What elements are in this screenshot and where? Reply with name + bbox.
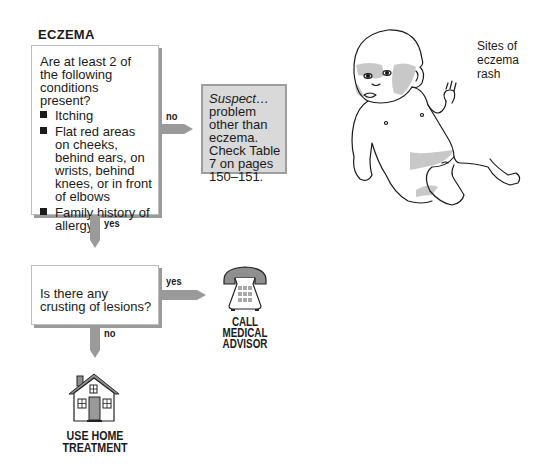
suspect-text: problem other than eczema. Check Table 7…	[209, 105, 281, 183]
use-home-treatment-label: USE HOME TREATMENT	[60, 430, 131, 454]
branch-label-no: no	[166, 110, 177, 122]
arrow-no-down	[90, 326, 100, 358]
call-medical-advisor-label: CALL MEDICAL ADVISOR	[216, 317, 273, 350]
arrow-yes-right	[160, 290, 206, 300]
arrow-yes-down	[90, 216, 100, 248]
arrow-no-right	[160, 124, 193, 134]
question-box-crusting: Is there any crusting of lesions?	[31, 265, 159, 325]
branch-label-yes: yes	[166, 275, 182, 287]
telephone-icon	[221, 264, 269, 314]
branch-label-no: no	[104, 327, 115, 339]
rash-sites-caption: Sites of eczema rash	[477, 39, 519, 81]
suspect-other-problem-box: Suspect… problem other than eczema. Chec…	[201, 84, 287, 174]
house-icon	[67, 372, 121, 424]
question-text: Is there any crusting of lesions?	[40, 287, 152, 313]
branch-label-yes: yes	[104, 217, 120, 229]
